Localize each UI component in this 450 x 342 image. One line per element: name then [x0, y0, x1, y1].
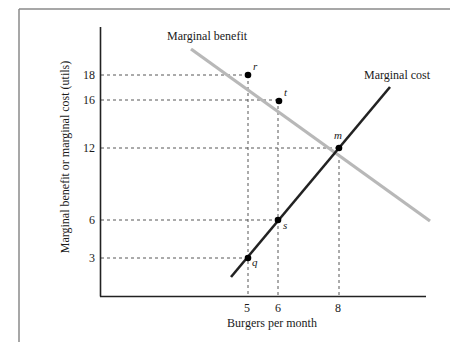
point-t	[276, 98, 283, 105]
x-tick-8: 8	[335, 301, 341, 315]
y-tick-3: 3	[89, 251, 95, 265]
marginal-cost-label: Marginal cost	[364, 68, 431, 82]
x-tick-5: 5	[244, 301, 250, 315]
label-t: t	[284, 86, 288, 98]
y-tick-12: 12	[83, 141, 95, 155]
label-s: s	[283, 219, 287, 231]
y-axis-title: Marginal benefit or marginal cost (utils…	[58, 61, 72, 254]
marginal-benefit-label: Marginal benefit	[167, 29, 248, 43]
figure-frame	[19, 9, 450, 342]
y-tick-labels: 18 16 12 6 3	[83, 68, 95, 265]
marginal-cost-line	[231, 87, 390, 277]
marginal-benefit-cost-chart: r t m s q Marginal benefit Marginal cost…	[0, 0, 450, 342]
point-r	[245, 72, 252, 79]
x-tick-6: 6	[275, 301, 281, 315]
point-q	[245, 255, 252, 262]
y-tick-18: 18	[83, 68, 95, 82]
label-m: m	[334, 129, 342, 141]
x-axis-title: Burgers per month	[227, 316, 317, 330]
label-q: q	[252, 256, 258, 268]
guide-lines	[101, 75, 339, 296]
point-m	[336, 145, 343, 152]
point-s	[275, 217, 282, 224]
y-tick-16: 16	[83, 93, 95, 107]
label-r: r	[253, 60, 258, 72]
y-tick-6: 6	[89, 213, 95, 227]
x-tick-labels: 5 6 8	[244, 301, 341, 315]
